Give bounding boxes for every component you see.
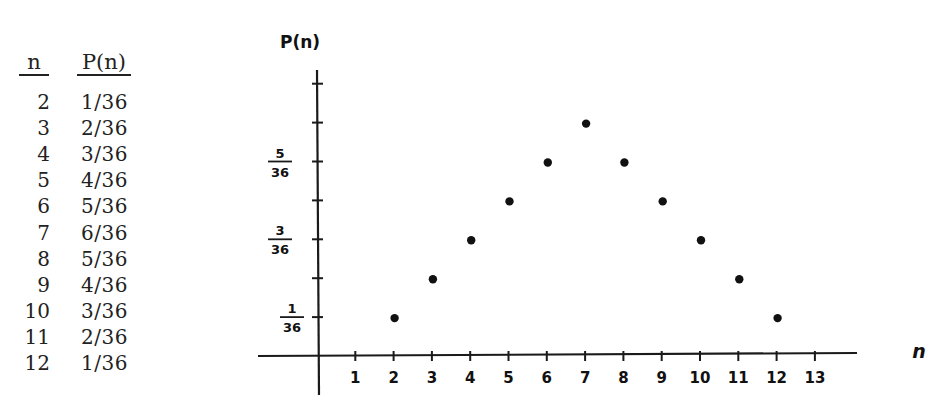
y-tick-label-denominator: 36 bbox=[271, 165, 289, 180]
data-point bbox=[544, 158, 552, 166]
data-point bbox=[582, 119, 590, 127]
data-point bbox=[773, 314, 781, 322]
x-tick-label: 10 bbox=[690, 369, 711, 387]
probability-chart: 13633653612345678910111213P(n)n bbox=[0, 0, 932, 420]
x-tick-label: 13 bbox=[804, 369, 825, 387]
x-tick-label: 6 bbox=[542, 369, 552, 387]
x-tick-label: 5 bbox=[503, 369, 513, 387]
data-point bbox=[429, 275, 437, 283]
data-point bbox=[697, 236, 705, 244]
x-tick-label: 7 bbox=[580, 369, 590, 387]
data-point bbox=[620, 158, 628, 166]
y-tick-label-denominator: 36 bbox=[271, 242, 289, 257]
x-axis bbox=[258, 353, 857, 356]
y-tick-label-numerator: 1 bbox=[287, 301, 296, 316]
y-tick-label-denominator: 36 bbox=[283, 320, 301, 335]
y-tick-label-numerator: 5 bbox=[275, 146, 284, 161]
data-point bbox=[390, 314, 398, 322]
x-tick-label: 4 bbox=[465, 369, 475, 387]
x-tick-label: 9 bbox=[656, 369, 666, 387]
data-point bbox=[505, 197, 513, 205]
data-point bbox=[735, 275, 743, 283]
data-point bbox=[659, 197, 667, 205]
x-tick-label: 3 bbox=[427, 369, 437, 387]
y-tick-label-numerator: 3 bbox=[275, 223, 284, 238]
data-point bbox=[467, 236, 475, 244]
x-tick-label: 11 bbox=[728, 369, 749, 387]
x-axis-label: n bbox=[912, 340, 926, 362]
y-axis bbox=[317, 70, 319, 395]
scatter-plot: 13633653612345678910111213P(n)n bbox=[0, 0, 932, 420]
y-axis-label: P(n) bbox=[280, 32, 320, 52]
x-tick-label: 12 bbox=[766, 369, 787, 387]
x-tick-label: 2 bbox=[388, 369, 398, 387]
x-tick-label: 8 bbox=[618, 369, 628, 387]
x-tick-label: 1 bbox=[350, 369, 360, 387]
